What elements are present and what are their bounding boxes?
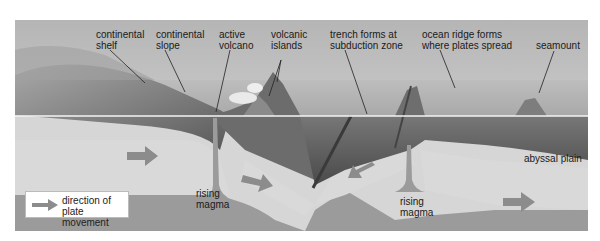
label-line: trench forms at [330, 29, 403, 40]
label-line: volcanic [271, 29, 307, 40]
label-ocean-ridge: ocean ridge forms where plates spread [422, 29, 512, 51]
label-abyssal-plain: abyssal plain [524, 153, 582, 164]
legend-text: direction of plate movement [62, 195, 128, 228]
label-line: where plates spread [422, 40, 512, 51]
ocean-floor-diagram: continental shelf continental slope acti… [15, 20, 588, 231]
label-trench: trench forms at subduction zone [330, 29, 403, 51]
label-line: continental [156, 29, 204, 40]
label-line: active [219, 29, 253, 40]
label-line: subduction zone [330, 40, 403, 51]
label-line: ocean ridge forms [422, 29, 512, 40]
label-rising-magma-left: rising magma [196, 188, 229, 210]
label-line: slope [156, 40, 204, 51]
label-line: islands [271, 40, 307, 51]
label-volcanic-islands: volcanic islands [271, 29, 307, 51]
legend: direction of plate movement [25, 191, 129, 218]
arrow-right-icon [32, 199, 58, 211]
label-rising-magma-right: rising magma [400, 196, 433, 218]
legend-line: plate movement [62, 206, 128, 228]
label-line: continental [96, 29, 144, 40]
label-line: rising [196, 188, 229, 199]
label-line: shelf [96, 40, 144, 51]
label-line: volcano [219, 40, 253, 51]
label-active-volcano: active volcano [219, 29, 253, 51]
legend-line: direction of [62, 195, 128, 206]
label-line: magma [400, 207, 433, 218]
label-seamount: seamount [536, 40, 580, 51]
label-line: rising [400, 196, 433, 207]
label-line: magma [196, 199, 229, 210]
label-continental-shelf: continental shelf [96, 29, 144, 51]
label-continental-slope: continental slope [156, 29, 204, 51]
